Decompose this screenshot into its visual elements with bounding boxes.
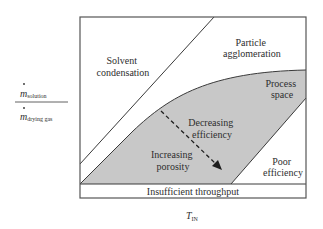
label-decreasing-efficiency: Decreasing efficiency xyxy=(188,117,235,140)
y-axis-label: msolution mdrying gas xyxy=(15,83,68,122)
label-insufficient-throughput: Insufficient throughput xyxy=(147,186,240,197)
label-poor-efficiency: Poor efficiency xyxy=(263,156,303,178)
label-solvent-condensation: Solvent condensation xyxy=(97,55,150,78)
x-axis-label: TIN xyxy=(186,210,199,222)
process-space-diagram: Solvent condensation Particle agglomerat… xyxy=(0,0,323,229)
dot-accent-icon xyxy=(23,107,25,109)
svg-text:mdrying gas: mdrying gas xyxy=(20,111,53,122)
dot-accent-icon xyxy=(23,83,25,85)
svg-text:msolution: msolution xyxy=(20,88,47,99)
label-increasing-porosity: Increasing porosity xyxy=(151,149,195,172)
label-particle-agglomeration: Particle agglomeration xyxy=(223,37,281,59)
